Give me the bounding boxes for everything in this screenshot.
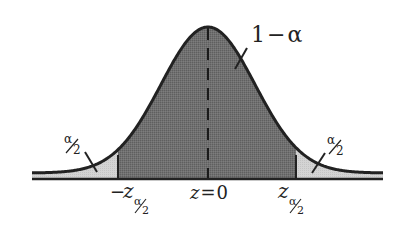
right-critical-label: z α 2 (277, 179, 304, 217)
svg-text:2: 2 (336, 144, 344, 158)
left-critical-label: − z α 2 (110, 179, 149, 217)
svg-text:2: 2 (297, 204, 304, 217)
center-tick-label: z=0 (189, 182, 228, 203)
svg-text:α: α (327, 133, 335, 147)
bell-curve-figure: 1−α α 2 α 2 − z α 2 z=0 z α (0, 0, 409, 225)
left-tail-label: α 2 (64, 132, 81, 157)
svg-text:z: z (122, 179, 134, 203)
center-area-label: 1−α (251, 22, 302, 47)
right-tail-label: α 2 (327, 133, 344, 158)
svg-text:2: 2 (142, 204, 149, 217)
svg-text:z: z (277, 179, 289, 203)
normal-distribution-diagram: 1−α α 2 α 2 − z α 2 z=0 z α (0, 0, 409, 225)
svg-text:α: α (64, 132, 72, 146)
svg-text:2: 2 (73, 143, 81, 157)
